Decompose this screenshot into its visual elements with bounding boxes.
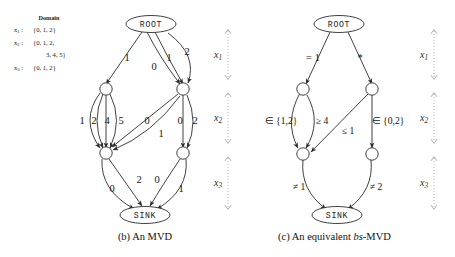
panel-b-node-x1-right [177, 83, 189, 95]
layer-label-x2: x2 [213, 112, 222, 125]
layer-label-x3: x3 [419, 177, 428, 190]
edge-label-b-1: 0 [151, 61, 156, 72]
layer-bracket-group-b: x1 x2 x3 [213, 30, 231, 210]
edge-label-b-15: 1 [178, 183, 183, 194]
panel-b-node-x1-left [100, 83, 112, 95]
layer-bracket-x2: x2 [419, 93, 437, 144]
panel-c-sink-node: SINK [312, 207, 362, 224]
edge-label-c-7: ≠ 2 [370, 181, 383, 192]
panel-c-node-x2-left [297, 148, 309, 160]
edge-n1-to-n3-5 [110, 94, 117, 148]
edge-label-c-0: = 1 [306, 52, 320, 63]
figure-container: Domain x1 : {0, 1, 2} x2 : {0, 1, 2, 3, … [0, 0, 455, 257]
caption-c-italic: bs [354, 231, 363, 242]
edge-c-right-ne2 [348, 160, 371, 209]
root-label: ROOT [328, 20, 350, 29]
edge-label-b-6: 4 [104, 115, 110, 126]
domain-legend-title: Domain [39, 14, 61, 21]
panel-b-root-node: ROOT [126, 16, 176, 33]
panel-c-root-node: ROOT [314, 16, 364, 33]
panel-c-node-x1-left [297, 83, 309, 95]
edge-label-b-13: 2 [136, 174, 141, 185]
domain-legend-row: 3, 4, 5} [46, 51, 66, 59]
layer-bracket-x1: x1 [213, 30, 231, 80]
edge-label-b-9: 1 [158, 128, 163, 139]
edge-label-b-8: 0 [144, 115, 149, 126]
domain-legend-row: x1 : {0, 1, 2} [14, 26, 56, 34]
panel-b-sink-node: SINK [120, 207, 170, 224]
edge-label-b-0: 1 [124, 52, 129, 63]
layer-bracket-x3: x3 [213, 157, 231, 210]
edge-label-c-2: ∈ {1,2} [265, 115, 298, 126]
sink-label: SINK [134, 211, 156, 220]
figure-svg: Domain x1 : {0, 1, 2} x2 : {0, 1, 2, 3, … [0, 0, 455, 257]
root-label: ROOT [140, 20, 162, 29]
edge-label-c-1: * [357, 52, 362, 63]
panel-c-node-x2-right [366, 148, 378, 160]
edge-c-left-ge4 [306, 95, 314, 148]
caption-c-suffix: -MVD [363, 231, 391, 242]
svg-text:(c) An equivalent bs-MVD: (c) An equivalent bs-MVD [278, 231, 391, 243]
layer-bracket-x2: x2 [213, 93, 231, 144]
layer-bracket-group-c: x1 x2 x3 [419, 30, 437, 210]
domain-legend-row: x2 : {0, 1, 2, [14, 39, 55, 47]
edge-label-c-5: ∈ {0,2} [372, 115, 405, 126]
edge-label-b-5: 2 [91, 115, 96, 126]
layer-label-x3: x3 [213, 177, 222, 190]
edge-label-b-10: 0 [177, 115, 182, 126]
layer-label-x1: x1 [419, 49, 428, 62]
edge-label-b-2: 1 [166, 52, 171, 63]
domain-var-1: x1 : [14, 26, 23, 34]
edge-label-b-4: 1 [79, 115, 84, 126]
edge-label-c-4: ≤ 1 [342, 125, 355, 136]
edge-label-c-6: ≠ 1 [293, 181, 306, 192]
caption-panel-c: (c) An equivalent bs-MVD [278, 231, 391, 243]
edge-label-b-14: 0 [154, 174, 159, 185]
edge-label-b-3: 2 [184, 46, 189, 57]
edge-label-b-12: 0 [109, 183, 114, 194]
panel-b-mvd-diagram: ROOT SINK 1 0 1 2 1 2 4 5 0 1 0 2 0 2 0 … [79, 16, 197, 224]
edge-n1-to-n3-2 [97, 94, 103, 148]
edge-label-c-3: ≥ 4 [316, 115, 329, 126]
sink-label: SINK [326, 211, 348, 220]
edge-label-b-11: 2 [192, 115, 197, 126]
domain-legend-row: x3 : {0, 1, 2} [14, 64, 56, 72]
layer-bracket-x1: x1 [419, 30, 437, 80]
panel-c-bsmvd-diagram: ROOT SINK = 1 * ∈ {1,2} ≥ 4 ≤ 1 ∈ {0,2} … [265, 16, 405, 224]
domain-var-3: x3 : [14, 64, 23, 72]
layer-bracket-x3: x3 [419, 157, 437, 210]
domain-var-2: x2 : [14, 39, 23, 47]
domain-legend: Domain x1 : {0, 1, 2} x2 : {0, 1, 2, 3, … [14, 14, 66, 72]
layer-label-x2: x2 [419, 112, 428, 125]
domain-value-3: {0, 1, 2} [33, 64, 56, 72]
domain-value-1: {0, 1, 2} [33, 26, 56, 34]
panel-b-node-x2-left [100, 147, 112, 159]
caption-panel-b: (b) An MVD [118, 231, 173, 243]
layer-label-x1: x1 [213, 49, 222, 62]
edge-root-to-n2-a [147, 32, 180, 84]
edge-label-b-7: 5 [118, 115, 123, 126]
domain-value-2b: 3, 4, 5} [46, 51, 66, 59]
edge-n3-to-sink-0 [102, 159, 134, 209]
edge-c-left-ne1 [303, 160, 326, 209]
panel-c-node-x1-right [366, 83, 378, 95]
caption-c-prefix: (c) An equivalent [278, 231, 354, 243]
panel-b-node-x2-right [177, 147, 189, 159]
domain-value-2: {0, 1, 2, [33, 39, 55, 47]
